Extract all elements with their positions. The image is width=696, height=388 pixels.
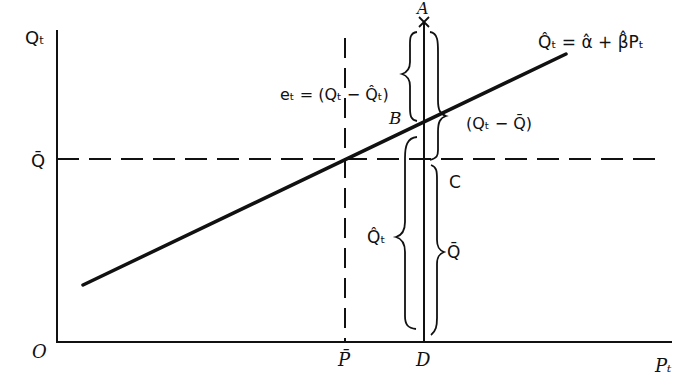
mean-brace-label: Q̄	[447, 241, 460, 262]
fitted-label: Q̂ₜ	[367, 227, 385, 247]
fitted-brace-icon	[396, 137, 417, 329]
origin-label: O	[32, 341, 47, 362]
regression-equation: Q̂ₜ = α̂ + β̂Pₜ	[538, 30, 644, 52]
y-axis-label: Qₜ	[25, 27, 44, 48]
regression-diagram: Qₜ Q̄ O P̄ D Pₜ A B C Q̂ₜ = α̂ + β̂Pₜ eₜ…	[0, 0, 696, 388]
residual-brace-icon	[402, 32, 417, 121]
mean-p-label: P̄	[337, 348, 351, 370]
d-label: D	[415, 349, 431, 370]
total-deviation-brace-icon	[430, 32, 446, 160]
x-axis-label: Pₜ	[654, 355, 672, 376]
residual-label: eₜ = (Qₜ − Q̂ₜ)	[280, 85, 389, 104]
point-b-label: B	[388, 108, 402, 128]
point-c-label: C	[449, 172, 461, 192]
point-a-label: A	[415, 0, 429, 18]
total-deviation-label: (Qₜ − Q̄)	[466, 114, 532, 133]
mean-q-label: Q̄	[31, 150, 45, 171]
mean-brace-icon	[431, 165, 444, 335]
